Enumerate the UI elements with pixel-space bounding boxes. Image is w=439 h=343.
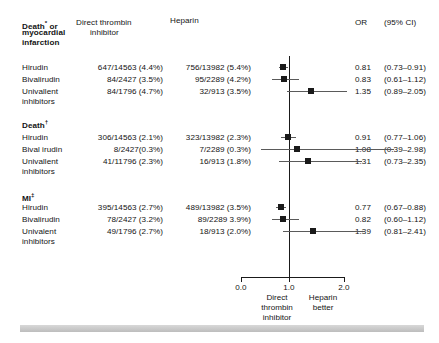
row-ci: (0.67–0.88): [384, 203, 439, 212]
row-heparin: 16/913 (1.8%): [165, 157, 251, 166]
header-dti-line2: inhibitor: [90, 28, 180, 37]
header-outcome-line2: myocardial: [22, 28, 65, 37]
row-label-cont: inhibitors: [22, 237, 55, 246]
header-heparin: Heparin: [170, 16, 250, 25]
axis-caption-left-l2: thrombin: [255, 303, 299, 313]
forest-plot-figure: Death* or myocardial infarction Direct t…: [0, 0, 439, 343]
row-or: 1.35: [355, 87, 377, 96]
x-axis-tick-label: 1.0: [276, 283, 302, 292]
header-or: OR: [355, 18, 377, 27]
header-outcome-line3: infarction: [22, 38, 59, 47]
row-ci: (0.73–0.91): [384, 63, 439, 72]
row-ci: (0.60–1.12): [384, 215, 439, 224]
odds-ratio-marker: [310, 228, 316, 234]
confidence-interval-whisker: [283, 231, 365, 232]
row-label: Hirudin: [22, 63, 48, 72]
row-or: 0.91: [355, 133, 377, 142]
x-axis-tick-label: 2.0: [331, 283, 357, 292]
row-dti: 84/2427 (3.5%): [77, 75, 163, 84]
odds-ratio-marker: [294, 146, 300, 152]
row-or: 0.82: [355, 215, 377, 224]
row-dti: 306/14563 (2.1%): [77, 133, 163, 142]
row-dti: 78/2427 (3.2%): [77, 215, 163, 224]
row-or: 0.77: [355, 203, 377, 212]
forest-plot-area: 0.0 1.0 2.0: [249, 18, 357, 283]
row-ci: (0.81–2.41): [384, 227, 439, 236]
x-axis-line: [241, 277, 345, 278]
x-axis-tick: [289, 277, 290, 282]
row-heparin: 95/2289 (4.2%): [165, 75, 251, 84]
row-label-cont: inhibitors: [22, 97, 55, 106]
axis-caption-left-l1: Direct: [255, 293, 299, 303]
row-heparin: 18/913 (2.0%): [165, 227, 251, 236]
row-label-cont: inhibitors: [22, 167, 55, 176]
axis-caption-right-l2: better: [301, 303, 345, 313]
row-or: 0.83: [355, 75, 377, 84]
row-dti: 41/11796 (2.3%): [77, 157, 163, 166]
odds-ratio-marker: [281, 76, 287, 82]
row-ci: (0.61–1.12): [384, 75, 439, 84]
row-ci: (0.89–2.05): [384, 87, 439, 96]
odds-ratio-marker: [308, 88, 314, 94]
row-dti: 395/14563 (2.7%): [77, 203, 163, 212]
odds-ratio-marker: [278, 204, 284, 210]
header-ci: (95% CI): [384, 18, 439, 27]
row-heparin: 89/2289 3.9%): [165, 215, 251, 224]
row-label: Univallent: [22, 157, 58, 166]
x-axis-tick: [344, 277, 345, 282]
row-ci: (0.73–2.35): [384, 157, 439, 166]
group-title-death: Death†: [22, 117, 48, 130]
row-label: Hirudin: [22, 133, 48, 142]
row-label: Univalent: [22, 227, 56, 236]
x-axis-tick-label: 0.0: [228, 283, 254, 292]
row-label: Bivalirudin: [22, 75, 60, 84]
row-heparin: 489/13982 (3.5%): [165, 203, 251, 212]
row-or: 0.81: [355, 63, 377, 72]
row-dti: 49/1796 (2.7%): [77, 227, 163, 236]
row-heparin: 7/2289 (0.3%): [165, 145, 251, 154]
confidence-interval-whisker: [279, 161, 362, 162]
axis-caption-left-l3: inhibitor: [255, 313, 299, 323]
row-label: Bival irudin: [22, 145, 62, 154]
footer-bar: [20, 325, 424, 332]
row-heparin: 32/913 (3.5%): [165, 87, 251, 96]
row-dti: 647/14563 (4.4%): [77, 63, 163, 72]
odds-ratio-marker: [305, 158, 311, 164]
row-label: Bivalirudin: [22, 215, 60, 224]
axis-caption-right-l1: Heparin: [301, 293, 345, 303]
row-ci: (0.77–1.06): [384, 133, 439, 142]
confidence-interval-whisker: [261, 149, 394, 150]
odds-ratio-marker: [285, 134, 291, 140]
row-dti: 84/1796 (4.7%): [77, 87, 163, 96]
odds-ratio-marker: [280, 64, 286, 70]
row-label: Univallent: [22, 87, 58, 96]
row-heparin: 756/13982 (5.4%): [165, 63, 251, 72]
row-heparin: 323/13982 (2.3%): [165, 133, 251, 142]
odds-ratio-marker: [280, 216, 286, 222]
null-reference-line: [289, 56, 290, 278]
confidence-interval-whisker: [287, 91, 347, 92]
row-label: Hirudin: [22, 203, 48, 212]
row-dti: 8/2427(0.3%): [77, 145, 163, 154]
header-dti-line1: Direct thrombin: [76, 18, 166, 27]
x-axis-tick: [241, 277, 242, 282]
group-title-mi: MI‡: [22, 190, 35, 203]
